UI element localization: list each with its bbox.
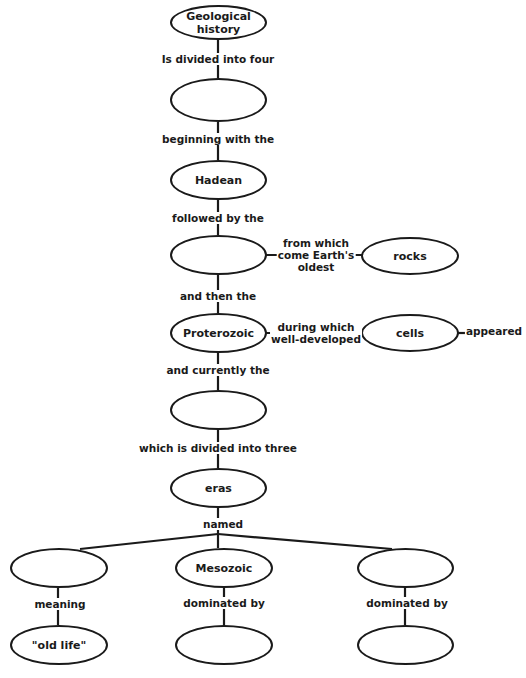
- node-hadean: Hadean: [170, 160, 267, 200]
- node-old-life: "old life": [10, 625, 108, 665]
- link-followed-by: followed by the: [171, 212, 265, 224]
- node-rocks: rocks: [361, 237, 459, 275]
- node-cells: cells: [361, 314, 459, 352]
- node-era-right-blank: [357, 548, 454, 588]
- node-geological-history: Geological history: [170, 5, 267, 40]
- link-meaning: meaning: [33, 598, 86, 610]
- link-from-which-line3: oldest: [278, 261, 355, 273]
- link-beginning-with: beginning with the: [161, 133, 275, 145]
- link-dominated-by-mid: dominated by: [182, 597, 266, 609]
- link-divided-three: which is divided into three: [138, 442, 298, 454]
- link-during-which-line2: well-developed: [271, 333, 361, 345]
- link-and-currently: and currently the: [165, 364, 270, 376]
- link-appeared: appeared: [465, 325, 523, 337]
- link-named: named: [202, 518, 244, 530]
- link-from-which-line1: from which: [278, 237, 355, 249]
- node-right-dominated-blank: [357, 625, 454, 665]
- link-during-which: during which well-developed: [270, 321, 362, 345]
- node-era-left-blank: [10, 548, 108, 588]
- node-current-blank: [170, 390, 267, 430]
- link-from-which-line2: come Earth's: [278, 249, 355, 261]
- node-proterozoic: Proterozoic: [170, 313, 267, 353]
- node-mesozoic-dominated-blank: [175, 625, 273, 665]
- link-dominated-by-right: dominated by: [365, 597, 449, 609]
- link-during-which-line1: during which: [271, 321, 361, 333]
- node-eras: eras: [170, 468, 267, 508]
- node-eons-blank: [170, 78, 267, 122]
- link-and-then: and then the: [179, 290, 257, 302]
- link-divided-four: Is divided into four: [161, 53, 276, 65]
- link-from-which: from which come Earth's oldest: [277, 237, 356, 273]
- node-mesozoic: Mesozoic: [175, 548, 273, 588]
- node-archean-blank: [170, 235, 267, 275]
